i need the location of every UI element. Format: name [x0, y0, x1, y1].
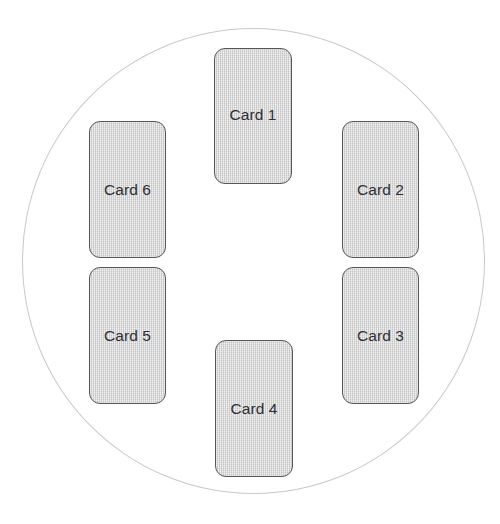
card-6[interactable]: Card 6	[89, 121, 166, 258]
card-5[interactable]: Card 5	[89, 267, 166, 404]
card-2-label: Card 2	[357, 182, 404, 198]
card-1[interactable]: Card 1	[214, 48, 292, 184]
card-4[interactable]: Card 4	[215, 340, 293, 477]
card-5-label: Card 5	[104, 328, 151, 344]
card-3-label: Card 3	[357, 328, 404, 344]
card-1-label: Card 1	[229, 107, 276, 123]
diagram-canvas: Card 1 Card 2 Card 3 Card 4 Card 5 Card …	[0, 0, 500, 524]
card-3[interactable]: Card 3	[342, 267, 419, 404]
card-4-label: Card 4	[230, 401, 277, 417]
card-6-label: Card 6	[104, 182, 151, 198]
card-2[interactable]: Card 2	[342, 121, 419, 258]
